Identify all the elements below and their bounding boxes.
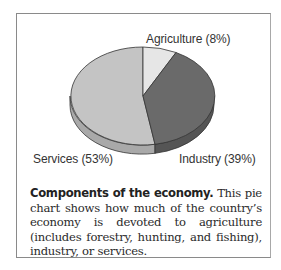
caption-title: Components of the economy. bbox=[30, 186, 213, 200]
figure-caption: Components of the economy. This pie char… bbox=[30, 186, 262, 259]
label-agriculture: Agriculture (8%) bbox=[146, 32, 230, 46]
label-industry: Industry (39%) bbox=[179, 152, 256, 166]
label-services: Services (53%) bbox=[33, 152, 113, 166]
